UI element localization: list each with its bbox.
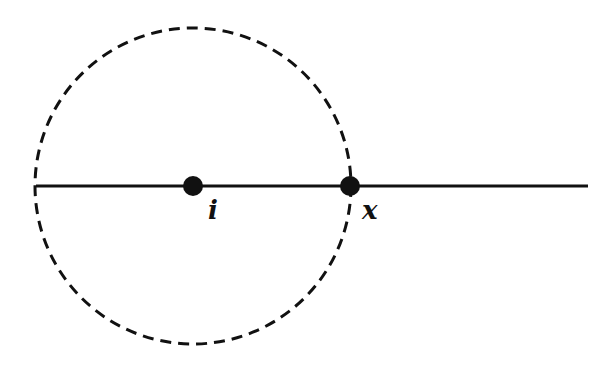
- point-x-dot: [340, 176, 360, 196]
- point-i-label: i: [208, 195, 218, 225]
- point-i-dot: [183, 176, 203, 196]
- point-x-label: x: [361, 195, 378, 225]
- diagram-canvas: i x: [0, 0, 604, 373]
- diagram-figure: i x: [0, 0, 604, 373]
